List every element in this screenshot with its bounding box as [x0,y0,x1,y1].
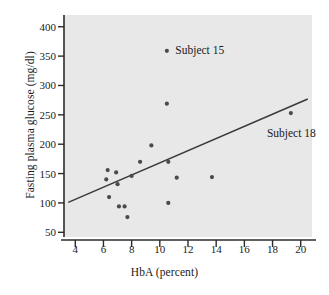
y-tick-label: 150 [0,168,329,180]
x-tick-label: 16 [239,243,250,255]
point-annotation: Subject 18 [267,127,316,139]
y-tick-label: 400 [0,21,329,33]
y-tick-label: 300 [0,79,329,91]
x-tick-label: 6 [101,243,107,255]
y-tick-label: 250 [0,109,329,121]
data-point [138,160,142,164]
scatter-plot-figure: 50100150200250300350400 468101214161820 … [0,0,329,295]
data-point [166,160,170,164]
x-axis-title: HbA (percent) [0,266,329,278]
x-tick-label: 8 [129,243,135,255]
y-tick-label: 50 [0,226,329,238]
x-tick-label: 4 [73,243,79,255]
x-tick-label: 18 [267,243,278,255]
data-point [165,102,169,106]
y-tick-label: 350 [0,50,329,62]
x-tick-label: 10 [154,243,165,255]
y-axis-title: Fasting plasma glucose (mg/dl) [24,18,36,233]
x-tick-label: 20 [295,243,306,255]
x-axis-tick-labels: 468101214161820 [0,243,329,263]
point-annotation: Subject 15 [175,44,224,56]
x-tick-label: 14 [211,243,222,255]
y-tick-label: 100 [0,197,329,209]
y-tick-label: 200 [0,138,329,150]
x-tick-label: 12 [183,243,194,255]
data-point [125,215,129,219]
data-point [115,182,119,186]
